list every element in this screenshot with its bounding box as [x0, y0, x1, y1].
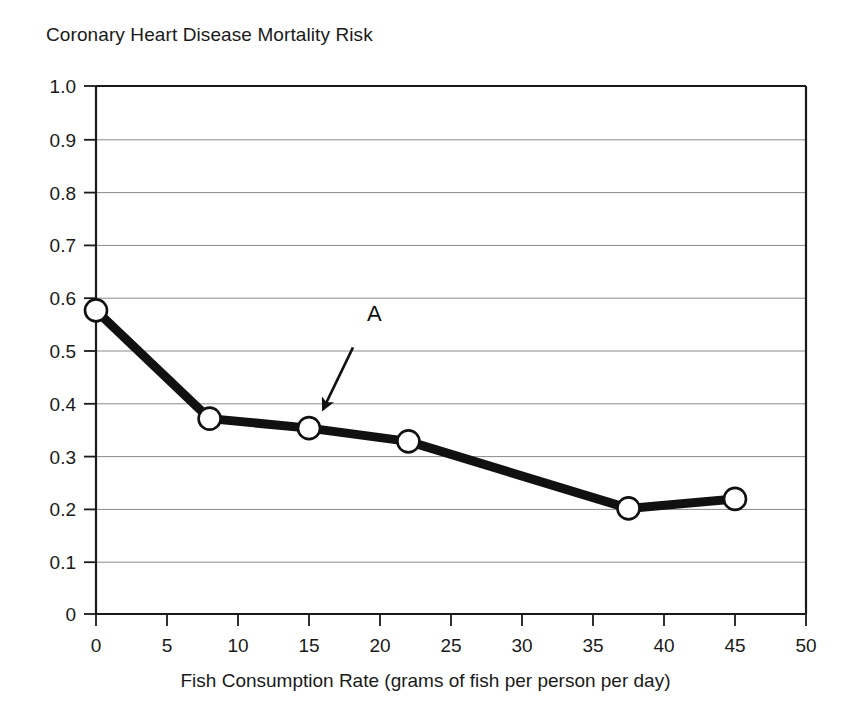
chart-figure: Coronary Heart Disease Mortality Risk [0, 0, 851, 709]
ytick-label-0.1: 0.1 [50, 552, 76, 573]
xtick-label-20: 20 [369, 635, 390, 656]
xtick-label-10: 10 [227, 635, 248, 656]
data-point-marker [618, 497, 640, 519]
xtick-label-5: 5 [162, 635, 173, 656]
xtick-label-25: 25 [440, 635, 461, 656]
data-point-marker [724, 488, 746, 510]
xtick-label-50: 50 [795, 635, 816, 656]
plot-background [96, 86, 806, 614]
data-point-marker [397, 430, 419, 452]
ytick-label-1.0: 1.0 [50, 76, 76, 97]
data-point-marker [298, 417, 320, 439]
data-point-marker [85, 299, 107, 321]
xtick-label-0: 0 [91, 635, 102, 656]
xtick-label-15: 15 [298, 635, 319, 656]
line-chart-plot: 1.0 0.9 0.8 0.7 0.6 0.5 0.4 0.3 0.2 0.1 … [0, 0, 851, 709]
ytick-label-0.3: 0.3 [50, 447, 76, 468]
y-axis-ticks [84, 86, 96, 614]
x-axis-title: Fish Consumption Rate (grams of fish per… [0, 670, 851, 692]
y-axis-tick-labels: 1.0 0.9 0.8 0.7 0.6 0.5 0.4 0.3 0.2 0.1 … [50, 76, 77, 625]
ytick-label-0.4: 0.4 [50, 394, 77, 415]
ytick-label-0.6: 0.6 [50, 288, 76, 309]
ytick-label-0.2: 0.2 [50, 499, 76, 520]
ytick-label-0.7: 0.7 [50, 235, 76, 256]
ytick-label-0.5: 0.5 [50, 341, 76, 362]
xtick-label-45: 45 [724, 635, 745, 656]
xtick-label-40: 40 [653, 635, 674, 656]
xtick-label-35: 35 [582, 635, 603, 656]
xtick-label-30: 30 [511, 635, 532, 656]
ytick-label-0: 0 [65, 604, 76, 625]
annotation-label-a: A [367, 301, 382, 326]
x-axis-tick-labels: 0 5 10 15 20 25 30 35 40 45 50 [91, 635, 817, 656]
ytick-label-0.8: 0.8 [50, 183, 76, 204]
ytick-label-0.9: 0.9 [50, 130, 76, 151]
data-point-marker [199, 408, 221, 430]
